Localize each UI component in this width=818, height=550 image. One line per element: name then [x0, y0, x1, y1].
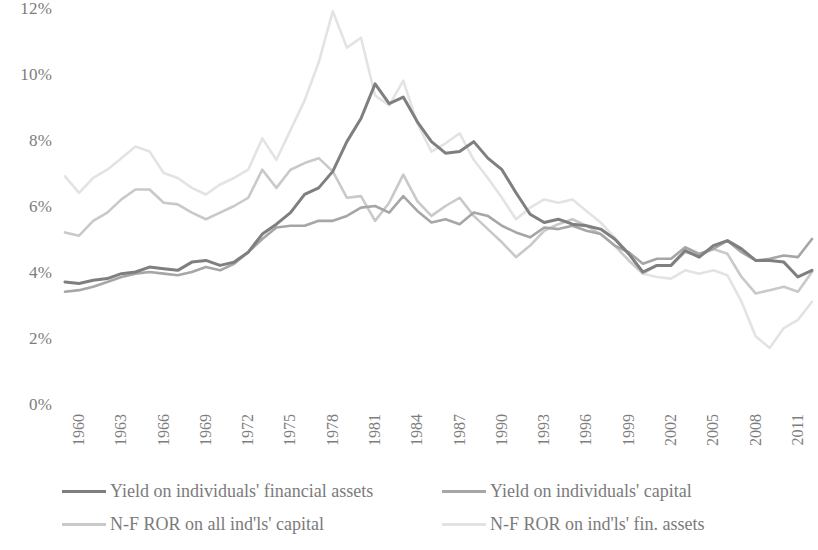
- x-tick-label: 1966: [156, 414, 172, 446]
- x-tick-label: 1969: [198, 414, 214, 446]
- x-tick-label: 1963: [113, 414, 129, 446]
- legend-label-1: Yield on individuals' capital: [490, 481, 692, 501]
- legend-item-1[interactable]: Yield on individuals' capital: [442, 478, 692, 504]
- x-tick-label: 1999: [621, 414, 637, 446]
- line-chart: 0%2%4%6%8%10%12% 19601963196619691972197…: [0, 0, 818, 550]
- legend-item-2[interactable]: N-F ROR on all ind'ls' capital: [62, 511, 324, 537]
- legend-swatch-3: [442, 523, 486, 526]
- legend-label-0: Yield on individuals' financial assets: [110, 481, 373, 501]
- x-tick-label: 1990: [494, 414, 510, 446]
- legend-swatch-1: [442, 490, 486, 493]
- x-tick-label: 2011: [790, 414, 806, 445]
- series-lines: [65, 11, 812, 348]
- legend-item-0[interactable]: Yield on individuals' financial assets: [62, 478, 373, 504]
- x-tick-label: 1984: [409, 414, 425, 446]
- x-tick-label: 2008: [748, 414, 764, 446]
- x-tick-label: 1987: [452, 414, 468, 446]
- x-tick-label: 1972: [240, 414, 256, 446]
- x-axis: 1960196319661969197219751978198119841987…: [0, 410, 818, 480]
- x-tick-label: 1975: [282, 414, 298, 446]
- legend-swatch-0: [62, 490, 106, 493]
- legend-swatch-2: [62, 523, 106, 526]
- plot-area: [0, 0, 818, 480]
- legend-item-3[interactable]: N-F ROR on ind'ls' fin. assets: [442, 511, 705, 537]
- x-tick-label: 2005: [705, 414, 721, 446]
- x-tick-label: 1993: [536, 414, 552, 446]
- x-tick-label: 1960: [71, 414, 87, 446]
- x-tick-label: 2002: [663, 414, 679, 446]
- x-tick-label: 1996: [578, 414, 594, 446]
- series-line: [65, 11, 812, 348]
- x-tick-label: 1978: [325, 414, 341, 446]
- x-tick-label: 1981: [367, 414, 383, 446]
- chart-legend: Yield on individuals' financial assets Y…: [0, 478, 818, 550]
- legend-label-3: N-F ROR on ind'ls' fin. assets: [490, 514, 705, 534]
- legend-label-2: N-F ROR on all ind'ls' capital: [110, 514, 324, 534]
